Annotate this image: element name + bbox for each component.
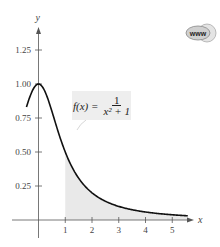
y-axis-label: y	[35, 12, 41, 23]
y-tick-label: 0.25	[15, 181, 31, 191]
y-tick-label: 1.00	[15, 79, 31, 89]
y-axis-arrow-icon	[36, 27, 41, 34]
x-tick-label: 3	[117, 225, 122, 235]
fraction: 1 x² + 1	[103, 95, 130, 116]
y-tick-label: 0.75	[15, 113, 31, 123]
label-pointer	[77, 120, 86, 130]
x-axis-arrow-icon	[187, 218, 194, 223]
x-tick-label: 5	[170, 225, 175, 235]
fraction-denominator: x² + 1	[103, 106, 130, 116]
function-label: f(x) = 1 x² + 1	[72, 91, 131, 120]
y-tick-label: 1.25	[15, 45, 31, 55]
shaded-area	[65, 152, 188, 220]
www-globe-icon[interactable]: www	[185, 22, 217, 48]
svg-text:www: www	[189, 30, 207, 37]
x-tick-label: 1	[63, 225, 68, 235]
y-tick-label: 0.50	[15, 147, 31, 157]
x-tick-label: 4	[143, 225, 148, 235]
function-lhs: f(x) =	[73, 100, 98, 112]
x-tick-label: 2	[90, 225, 95, 235]
x-axis-label: x	[197, 214, 203, 225]
